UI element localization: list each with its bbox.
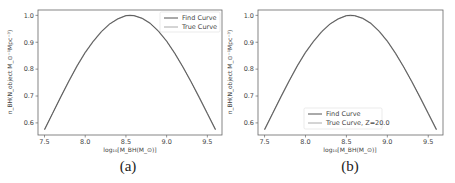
- y-axis-label: n_BH(N_object M_⊙⁻¹Mpc⁻³): [226, 30, 234, 115]
- legend-label-find-curve: Find Curve: [182, 14, 217, 22]
- legend-label-find-curve: Find Curve: [326, 110, 361, 118]
- y-tick-label: 1.0: [24, 12, 34, 20]
- y-tick-label: 0.6: [24, 119, 34, 127]
- x-axis-ticks: 7.58.08.59.09.5: [39, 135, 212, 146]
- y-tick-label: 0.7: [244, 92, 254, 100]
- legend-label-true-curve: True Curve, Z=20.0: [325, 119, 390, 127]
- y-tick-label: 1.0: [244, 12, 254, 20]
- y-axis-ticks: 0.60.70.80.91.0: [244, 12, 258, 128]
- y-tick-label: 0.7: [24, 92, 34, 100]
- chart-panel-a: 7.58.08.59.09.5 0.60.70.80.91.0 Find Cur…: [0, 0, 228, 183]
- legend: Find Curve True Curve: [160, 12, 220, 32]
- y-tick-label: 0.8: [244, 65, 254, 73]
- legend: Find Curve True Curve, Z=20.0: [304, 108, 390, 129]
- x-tick-label: 7.5: [259, 138, 269, 146]
- panel-caption: (b): [320, 158, 380, 175]
- chart-panel-b: 7.58.08.59.09.5 0.60.70.80.91.0 Find Cur…: [220, 0, 448, 183]
- x-axis-label: log₁₀[M_BH(M_⊙)]: [323, 146, 376, 154]
- y-tick-label: 0.9: [24, 39, 34, 47]
- panel-caption: (a): [98, 158, 158, 175]
- x-tick-label: 9.0: [382, 138, 392, 146]
- legend-label-true-curve: True Curve: [181, 23, 217, 31]
- plot-a: 7.58.08.59.09.5 0.60.70.80.91.0 Find Cur…: [0, 0, 228, 160]
- y-axis-ticks: 0.60.70.80.91.0: [24, 12, 38, 128]
- x-tick-label: 9.5: [423, 138, 433, 146]
- x-axis-label: log₁₀[M_BH(M_⊙)]: [103, 146, 156, 154]
- x-tick-label: 8.5: [121, 138, 131, 146]
- plot-b: 7.58.08.59.09.5 0.60.70.80.91.0 Find Cur…: [220, 0, 455, 160]
- x-tick-label: 9.5: [202, 138, 212, 146]
- y-axis-label: n_BH(N_object M_⊙⁻¹Mpc⁻³): [6, 30, 14, 115]
- y-tick-label: 0.6: [244, 119, 254, 127]
- x-tick-label: 8.5: [341, 138, 351, 146]
- x-tick-label: 7.5: [39, 138, 49, 146]
- x-axis-ticks: 7.58.08.59.09.5: [259, 135, 433, 146]
- x-tick-label: 8.0: [80, 138, 90, 146]
- y-tick-label: 0.9: [244, 39, 254, 47]
- y-tick-label: 0.8: [24, 65, 34, 73]
- x-tick-label: 8.0: [300, 138, 310, 146]
- x-tick-label: 9.0: [161, 138, 171, 146]
